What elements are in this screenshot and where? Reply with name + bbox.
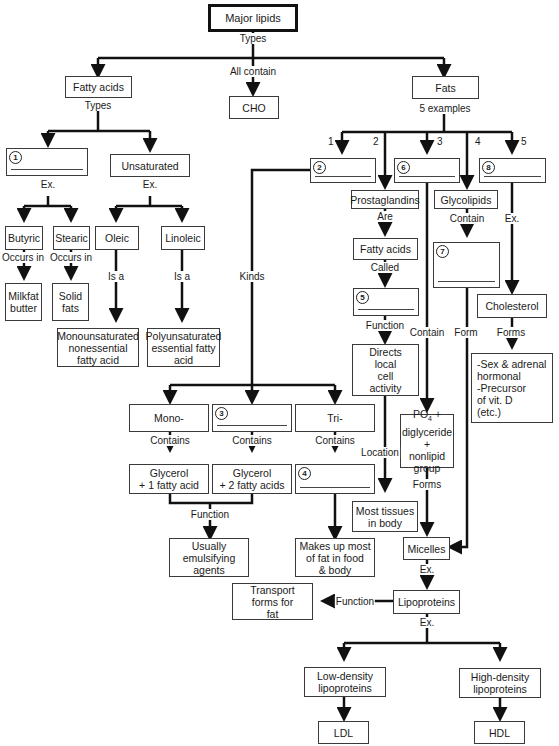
edge-label-ex-1: Ex. — [40, 179, 56, 190]
node-stearic: Stearic — [53, 226, 90, 250]
blank-number: 8 — [482, 161, 495, 174]
node-linoleic: Linoleic — [161, 226, 205, 250]
edge-label-ex-8: Ex. — [504, 213, 520, 224]
blank-box-7[interactable]: 7 — [433, 242, 500, 288]
blank-box-3[interactable]: 3 — [212, 404, 292, 432]
answer-line[interactable] — [11, 169, 83, 170]
edge-label-function-glycerol: Function — [190, 509, 230, 520]
edge-label-forms-po4: Forms — [412, 479, 442, 490]
blank-box-6[interactable]: 6 — [394, 158, 460, 183]
node-milkfat-butter: Milkfat butter — [5, 283, 42, 321]
edge-label-types-fatty-acids: Types — [84, 100, 113, 111]
edge-label-5-examples: 5 examples — [418, 103, 471, 114]
edge-label-forms-cholesterol: Forms — [496, 327, 526, 338]
blank-number: 5 — [356, 291, 369, 304]
blank-number: 6 — [397, 161, 410, 174]
node-fats: Fats — [412, 76, 479, 99]
blank-box-2[interactable]: 2 — [310, 158, 376, 183]
answer-line[interactable] — [300, 487, 370, 488]
branch-number-1: 1 — [328, 136, 334, 147]
node-ldl: LDL — [318, 721, 369, 744]
blank-number: 7 — [436, 245, 449, 258]
blank-number: 1 — [9, 151, 22, 164]
node-oleic: Oleic — [95, 226, 139, 250]
edge-label-all-contain: All contain — [229, 66, 277, 77]
answer-line[interactable] — [484, 176, 541, 177]
node-solid-fats: Solid fats — [52, 283, 89, 321]
node-makes-up-most-fat: Makes up most of fat in food & body — [295, 538, 375, 577]
edge-label-called: Called — [370, 262, 400, 273]
blank-box-5[interactable]: 5 — [353, 288, 419, 316]
node-mono: Mono- — [129, 404, 209, 432]
edge-label-ex-unsaturated: Ex. — [142, 179, 158, 190]
node-fatty-acids-2: Fatty acids — [353, 238, 418, 260]
edge-label-are: Are — [376, 211, 394, 222]
node-low-density-lipoproteins: Low-density lipoproteins — [304, 667, 386, 697]
node-sex-adrenal-hormonal: -Sex & adrenal hormonal -Precursor of vi… — [471, 353, 553, 423]
node-po4-diglyceride: PO4 + diglyceride + nonlipid group — [400, 414, 454, 468]
blank-number: 2 — [313, 161, 326, 174]
node-transport-forms-for-fat: Transport forms for fat — [232, 583, 313, 620]
blank-number: 4 — [298, 467, 311, 480]
node-butyric: Butyric — [5, 226, 43, 250]
node-directs-local-cell-activity: Directs local cell activity — [352, 344, 419, 396]
edge-label-types: Types — [239, 33, 268, 44]
node-monounsaturated-nonessential: Monounsaturated nonessential fatty acid — [57, 328, 139, 367]
node-polyunsaturated-essential: Polyunsaturated essential fatty acid — [147, 328, 220, 367]
node-most-tissues: Most tissues in body — [352, 501, 418, 532]
node-hdl: HDL — [474, 721, 525, 744]
blank-number: 3 — [215, 407, 228, 420]
edge-label-contains-3: Contains — [231, 435, 272, 446]
node-unsaturated: Unsaturated — [110, 154, 190, 177]
branch-number-2: 2 — [373, 136, 379, 147]
node-glycerol-1-fatty-acid: Glycerol + 1 fatty acid — [129, 464, 209, 494]
node-micelles: Micelles — [403, 537, 450, 560]
edge-label-form-7: Form — [453, 327, 478, 338]
blank-box-4[interactable]: 4 — [295, 464, 375, 494]
edge-label-location: Location — [360, 447, 400, 458]
edge-label-is-a-1: Is a — [107, 271, 125, 282]
edge-label-ex-micelles: Ex. — [419, 564, 435, 575]
edge-label-is-a-2: Is a — [173, 271, 191, 282]
answer-line[interactable] — [217, 425, 287, 426]
node-glycolipids: Glycolipids — [434, 190, 498, 209]
edge-label-occurs-in-2: Occurs in — [49, 252, 93, 263]
answer-line[interactable] — [438, 281, 495, 282]
blank-box-8[interactable]: 8 — [479, 158, 546, 183]
edge-label-function-5: Function — [365, 320, 405, 331]
node-cho: CHO — [229, 96, 279, 119]
answer-line[interactable] — [315, 176, 371, 177]
node-lipoproteins: Lipoproteins — [393, 590, 460, 614]
branch-number-3: 3 — [437, 136, 443, 147]
edge-label-contain-glycolipids: Contain — [449, 213, 485, 224]
edge-label-contain-6: Contain — [409, 327, 445, 338]
node-glycerol-2-fatty-acids: Glycerol + 2 fatty acids — [212, 464, 292, 494]
answer-line[interactable] — [358, 309, 414, 310]
node-tri: Tri- — [295, 404, 375, 432]
edge-label-occurs-in-1: Occurs in — [1, 252, 45, 263]
answer-line[interactable] — [399, 176, 455, 177]
edge-label-contains-mono: Contains — [149, 435, 190, 446]
edge-label-function-lipoproteins: Function — [335, 596, 375, 607]
node-cholesterol: Cholesterol — [477, 294, 547, 318]
node-prostaglandins: Prostaglandins — [351, 190, 419, 209]
connector — [170, 494, 252, 503]
node-usually-emulsifying-agents: Usually emulsifying agents — [169, 538, 249, 577]
edge-label-contains-tri: Contains — [314, 435, 355, 446]
po4-text: PO4 + diglyceride + nonlipid group — [402, 408, 452, 473]
node-fatty-acids: Fatty acids — [65, 76, 132, 98]
blank-box-1[interactable]: 1 — [6, 148, 88, 176]
edge-label-kinds: Kinds — [238, 271, 265, 282]
node-major-lipids: Major lipids — [208, 4, 298, 32]
branch-number-5: 5 — [521, 136, 527, 147]
edge-label-ex-lipoproteins: Ex. — [419, 617, 435, 628]
node-high-density-lipoproteins: High-density lipoproteins — [459, 668, 541, 698]
branch-number-4: 4 — [475, 136, 481, 147]
